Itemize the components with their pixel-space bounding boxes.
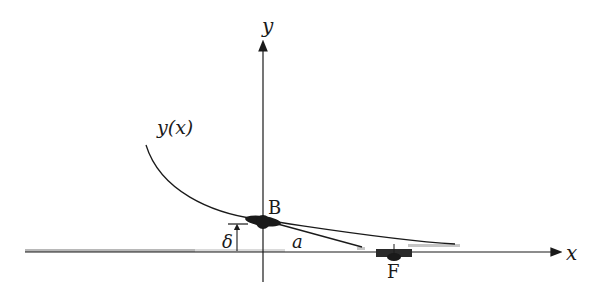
curve-yx [146, 145, 455, 244]
diagram-canvas: y x y(x) B F δ a [0, 0, 606, 294]
point-b-label: B [268, 197, 281, 218]
point-f-marker [376, 244, 412, 261]
delta-label: δ [222, 231, 233, 252]
y-axis-label: y [261, 14, 274, 38]
point-f-label: F [387, 261, 400, 282]
curve-label: y(x) [156, 116, 193, 138]
a-label: a [292, 231, 303, 252]
diagram-svg: y x y(x) B F δ a [0, 0, 606, 294]
x-axis-label: x [566, 241, 577, 265]
